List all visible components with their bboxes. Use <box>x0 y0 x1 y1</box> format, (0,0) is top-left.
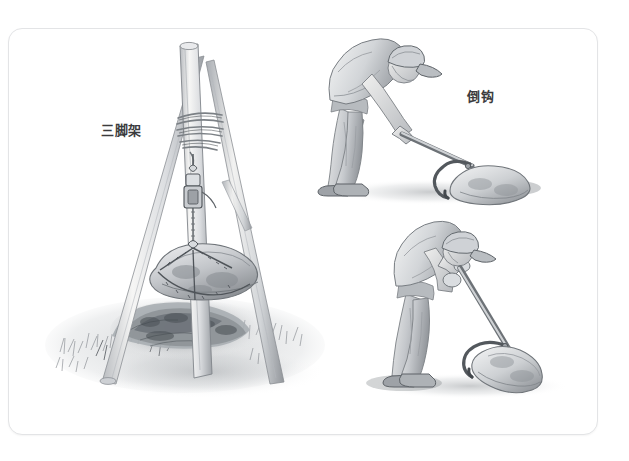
boulder <box>450 166 530 205</box>
suspended-boulder <box>150 241 258 301</box>
tripod-hoist-illustration <box>45 42 325 398</box>
caption-hook: 倒钩 <box>467 90 494 103</box>
worker-levering-stone-illustration <box>366 221 568 399</box>
trousers <box>328 95 368 190</box>
worker-dragging-stone-illustration <box>318 39 541 205</box>
hand <box>443 273 461 287</box>
illustration-page: 三脚架 倒钩 <box>0 0 629 461</box>
illustration-layer <box>0 0 629 461</box>
trousers <box>392 281 434 378</box>
boots <box>383 374 436 387</box>
boots <box>318 184 369 196</box>
caption-tripod: 三脚架 <box>101 124 142 137</box>
